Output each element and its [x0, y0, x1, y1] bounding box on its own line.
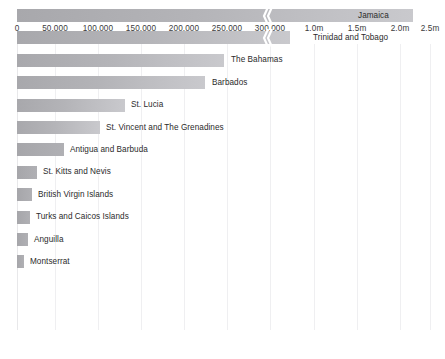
bar	[17, 188, 32, 201]
bar	[17, 143, 64, 156]
bar-row: St. Kitts and Nevis	[0, 166, 445, 188]
bar	[17, 99, 125, 112]
bar	[17, 166, 37, 179]
bar-series: JamaicaTrinidad and TobagoThe BahamasBar…	[0, 0, 445, 296]
bar-row: Turks and Caicos Islands	[0, 211, 445, 233]
bar	[17, 211, 30, 224]
bar-row: British Virgin Islands	[0, 188, 445, 210]
bar-row: Montserrat	[0, 255, 445, 277]
bar-category-label: St. Lucia	[131, 99, 163, 111]
bar-category-label: Turks and Caicos Islands	[36, 211, 129, 223]
bar-category-label: Antigua and Barbuda	[70, 144, 148, 156]
bar-row: Antigua and Barbuda	[0, 143, 445, 165]
bar	[17, 76, 205, 89]
bar	[17, 9, 413, 22]
bar	[17, 233, 28, 246]
bar-category-label: The Bahamas	[231, 54, 283, 66]
bar-row: St. Vincent and The Grenadines	[0, 121, 445, 143]
bar-row: Jamaica	[0, 9, 445, 31]
bar-chart: 050,000100,000150,000200,000250,000300,0…	[0, 0, 445, 359]
bar-category-label: Trinidad and Tobago	[313, 32, 388, 44]
bar-category-label: St. Vincent and The Grenadines	[106, 122, 224, 134]
bar	[17, 31, 290, 44]
bar	[17, 121, 100, 134]
bar-category-label: Jamaica	[358, 10, 389, 22]
bar-row: The Bahamas	[0, 54, 445, 76]
bar-row: St. Lucia	[0, 99, 445, 121]
bar-row: Anguilla	[0, 233, 445, 255]
bar-row: Trinidad and Tobago	[0, 31, 445, 53]
bar-category-label: British Virgin Islands	[38, 189, 113, 201]
bar-row: Barbados	[0, 76, 445, 98]
bar-category-label: Anguilla	[34, 234, 64, 246]
bar-category-label: St. Kitts and Nevis	[43, 166, 111, 178]
bar	[17, 54, 224, 67]
bar-category-label: Barbados	[212, 77, 247, 89]
bar	[17, 255, 24, 268]
bar-category-label: Montserrat	[30, 256, 70, 268]
